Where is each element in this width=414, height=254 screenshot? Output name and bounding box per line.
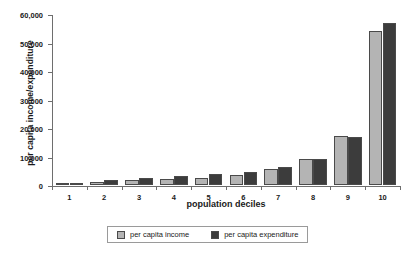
y-axis-tick-label: 40,000 xyxy=(20,68,43,77)
bar-income xyxy=(334,136,348,185)
x-axis-tick xyxy=(365,186,366,190)
y-axis-tick: 60,000 xyxy=(48,15,52,16)
x-axis-title: population deciles xyxy=(52,199,400,209)
chart-legend: per capita incomeper capita expenditure xyxy=(107,226,308,243)
bar-expenditure xyxy=(104,180,118,185)
bar-income xyxy=(369,31,383,185)
bar-income xyxy=(160,179,174,185)
bar-expenditure xyxy=(70,183,84,185)
x-axis-tick xyxy=(226,186,227,190)
bar-expenditure xyxy=(139,178,153,185)
y-axis-tick: 20,000 xyxy=(48,129,52,130)
x-axis-tick xyxy=(330,186,331,190)
y-axis-tick: 30,000 xyxy=(48,101,52,102)
bar-group xyxy=(125,14,153,185)
legend-entry: per capita income xyxy=(117,230,189,239)
bar-expenditure xyxy=(313,159,327,186)
x-axis-tick xyxy=(191,186,192,190)
bar-chart-figure: per capita income/expenditure 010,00020,… xyxy=(0,0,414,254)
bar-income xyxy=(299,159,313,185)
legend-label: per capita income xyxy=(130,230,189,239)
bar-group xyxy=(90,14,118,185)
bar-expenditure xyxy=(244,172,258,185)
plot-area: 010,00020,00030,00040,00050,00060,000 12… xyxy=(52,15,400,186)
legend-entry: per capita expenditure xyxy=(211,230,298,239)
legend-label: per capita expenditure xyxy=(224,230,298,239)
bar-group xyxy=(334,14,362,185)
bar-income xyxy=(195,178,209,185)
bar-group xyxy=(299,14,327,185)
x-axis-tick xyxy=(400,186,401,190)
x-axis-tick xyxy=(296,186,297,190)
x-axis-tick xyxy=(122,186,123,190)
x-axis-tick xyxy=(87,186,88,190)
bar-group xyxy=(369,14,397,185)
bar-income xyxy=(264,169,278,185)
bar-group xyxy=(160,14,188,185)
x-axis-tick xyxy=(261,186,262,190)
y-axis-line xyxy=(52,15,53,187)
bar-income xyxy=(230,175,244,185)
bar-expenditure xyxy=(383,23,397,185)
bar-expenditure xyxy=(209,174,223,185)
bar-income xyxy=(56,183,70,185)
legend-swatch-income xyxy=(117,231,125,239)
y-axis-tick-label: 60,000 xyxy=(20,11,43,20)
bar-expenditure xyxy=(348,137,362,185)
legend-swatch-expenditure xyxy=(211,231,219,239)
y-axis-tick-label: 20,000 xyxy=(20,125,43,134)
y-axis-tick-label: 50,000 xyxy=(20,39,43,48)
y-axis-tick-label: 10,000 xyxy=(20,153,43,162)
bar-group xyxy=(195,14,223,185)
y-axis-tick-label: 30,000 xyxy=(20,96,43,105)
bar-income xyxy=(125,180,139,185)
bar-group xyxy=(56,14,84,185)
bar-group xyxy=(230,14,258,185)
bar-income xyxy=(90,182,104,185)
x-axis-tick xyxy=(156,186,157,190)
y-axis-tick: 10,000 xyxy=(48,158,52,159)
bar-group xyxy=(264,14,292,185)
y-axis-tick: 50,000 xyxy=(48,44,52,45)
bar-expenditure xyxy=(278,167,292,185)
bar-expenditure xyxy=(174,176,188,185)
y-axis-tick-label: 0 xyxy=(39,182,43,191)
x-axis-tick xyxy=(52,186,53,190)
y-axis-tick: 40,000 xyxy=(48,72,52,73)
